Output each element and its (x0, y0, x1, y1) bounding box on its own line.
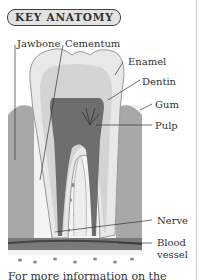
label-dentin: Dentin (142, 76, 176, 87)
label-enamel: Enamel (128, 56, 166, 67)
label-blood-vessel-line2: vessel (157, 249, 188, 260)
gum-right (116, 105, 142, 240)
label-cementum: Cementum (65, 38, 120, 49)
label-gum: Gum (155, 99, 179, 110)
label-pulp: Pulp (155, 120, 178, 131)
label-nerve: Nerve (157, 215, 188, 226)
gum-left (8, 105, 34, 240)
label-jawbone: Jawbone (17, 38, 60, 49)
caption-text: For more information on the (8, 270, 167, 280)
label-blood-vessel-line1: Blood (157, 237, 186, 248)
